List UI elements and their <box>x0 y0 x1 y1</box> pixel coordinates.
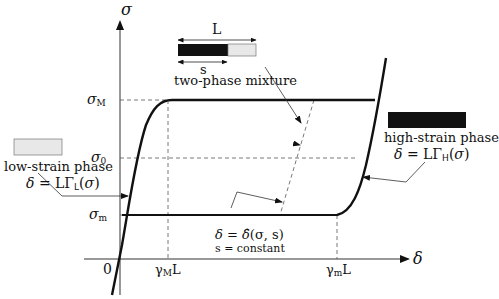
high-phase-title: high-strain phase <box>384 131 499 144</box>
mixture-title: two-phase mixture <box>174 74 297 87</box>
sigma-M-label: σM <box>87 92 106 108</box>
length-label: L <box>212 22 221 36</box>
y-axis-label: σ <box>121 2 132 18</box>
constant-s-pointer <box>231 192 282 208</box>
constant-s-formula: δ = δ̂(σ, s) <box>215 228 284 241</box>
mixture-pointer-dummy <box>238 130 300 145</box>
low-phase-swatch <box>14 139 62 155</box>
gamma-m-L-label: γmL <box>326 263 351 278</box>
high-phase-formula: δδ = LΓ = LΓH(σ) <box>394 147 469 163</box>
x-axis-label: δ <box>413 251 423 267</box>
high-phase-swatch <box>388 112 466 128</box>
sigma-m-label: σm <box>89 207 107 223</box>
two-phase-bar <box>178 40 256 62</box>
high-phase-pointer <box>363 162 425 182</box>
x-axis <box>84 255 410 263</box>
origin-label: 0 <box>103 262 112 276</box>
constant-s-note: s = constant <box>215 243 285 254</box>
low-phase-formula: δδ = LΓ = LΓL(σ) <box>26 176 100 192</box>
x-axis-arrow-icon <box>400 255 410 263</box>
high-strain-branch <box>337 58 386 215</box>
gamma-M-L-label: γML <box>155 263 181 278</box>
y-axis-arrow-icon <box>116 20 124 30</box>
low-phase-title: low-strain phase <box>4 160 113 173</box>
